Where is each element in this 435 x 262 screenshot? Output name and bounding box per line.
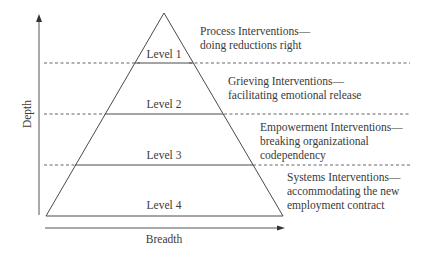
intervention-title: Systems Interventions— [287,170,400,184]
intervention-subtitle: codependency [260,148,403,162]
intervention-title: Empowerment Interventions— [260,120,403,134]
intervention-subtitle: doing reductions right [200,38,310,52]
intervention-subtitle: breaking organizational [260,134,403,148]
intervention-title: Process Interventions— [200,24,310,38]
breadth-axis-label: Breadth [124,233,204,245]
intervention-subtitle: facilitating emotional release [228,88,361,102]
depth-axis-arrow [36,14,42,215]
level-4-label: Level 4 [124,199,204,211]
breadth-axis-arrow [45,226,285,231]
depth-axis-label: Depth [21,97,33,131]
level-2-label: Level 2 [124,98,204,110]
intervention-title: Grieving Interventions— [228,74,361,88]
grieving-interventions-text: Grieving Interventions— facilitating emo… [228,74,361,102]
intervention-subtitle: accommodating the new [287,184,400,198]
process-interventions-text: Process Interventions— doing reductions … [200,24,310,52]
level-3-label: Level 3 [124,149,204,161]
level-1-label: Level 1 [124,48,204,60]
intervention-subtitle: employment contract [287,198,400,212]
empowerment-interventions-text: Empowerment Interventions— breaking orga… [260,120,403,162]
systems-interventions-text: Systems Interventions— accommodating the… [287,170,400,212]
